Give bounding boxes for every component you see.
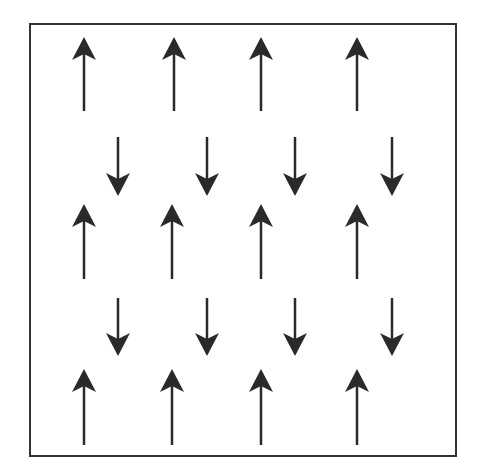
arrow-down-icon [283,298,307,356]
arrow-down-icon [195,137,219,196]
arrow-up-icon [160,204,184,279]
arrow-down-icon [106,298,130,356]
arrow-up-icon [160,369,184,445]
arrow-down-icon [106,137,130,196]
spin-arrows [0,0,481,475]
arrow-up-icon [72,369,96,445]
arrow-up-icon [249,37,273,111]
arrow-up-icon [345,37,369,111]
arrow-up-icon [345,204,369,279]
arrow-up-icon [249,369,273,445]
arrow-up-icon [345,369,369,445]
arrow-down-icon [195,298,219,356]
arrow-up-icon [72,37,96,111]
arrow-up-icon [162,37,186,111]
arrow-up-icon [249,204,273,279]
arrow-down-icon [283,137,307,196]
arrow-up-icon [72,204,96,279]
arrow-down-icon [380,298,404,356]
arrow-down-icon [380,137,404,196]
